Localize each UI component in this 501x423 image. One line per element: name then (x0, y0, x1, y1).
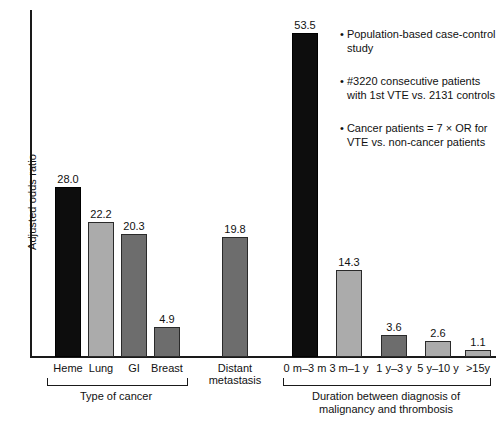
x-tick-label-line: 0 m–3 m (284, 362, 327, 374)
group-label-line: malignancy and thrombosis (312, 403, 460, 416)
bar: 4.9 (154, 327, 180, 357)
group-label: Duration between diagnosis ofmalignancy … (312, 390, 460, 416)
bar-value-label: 14.3 (338, 256, 359, 268)
y-axis-title: Adjusted odds ratio (26, 122, 38, 282)
annotation-item: • Cancer patients = 7 × OR for VTE vs. n… (340, 122, 500, 149)
x-tick-label: GI (128, 362, 140, 374)
group-label: Type of cancer (80, 390, 152, 403)
bar-value-label: 53.5 (294, 19, 315, 31)
x-tick-label: Heme (53, 362, 82, 374)
group-label-line: Type of cancer (80, 390, 152, 403)
x-tick-label: 1 y–3 y (376, 362, 411, 374)
x-tick-label-line: 3 m–1 y (329, 362, 368, 374)
x-tick-label: 3 m–1 y (329, 362, 368, 374)
x-tick-label-line: GI (128, 362, 140, 374)
x-tick-label-line: Heme (53, 362, 82, 374)
x-tick-label: Distantmetastasis (209, 362, 262, 386)
bar: 28.0 (55, 187, 81, 357)
x-tick-label-line: 5 y–10 y (417, 362, 459, 374)
bar-value-label: 22.2 (90, 208, 111, 220)
annotation-list: • Population-based case-control study• #… (340, 28, 500, 169)
bar-value-label: 20.3 (123, 220, 144, 232)
bar-value-label: 1.1 (470, 336, 485, 348)
bar: 53.5 (292, 33, 318, 357)
bar-value-label: 2.6 (430, 327, 445, 339)
x-tick-label-line: Lung (89, 362, 113, 374)
x-tick-label-line: Breast (151, 362, 183, 374)
x-tick-label-line: >15y (466, 362, 490, 374)
annotation-item: • Population-based case-control study (340, 28, 500, 55)
bar-value-label: 4.9 (159, 313, 174, 325)
bar: 1.1 (465, 350, 491, 357)
x-tick-label: Breast (151, 362, 183, 374)
x-tick-label: 0 m–3 m (284, 362, 327, 374)
bar: 19.8 (222, 237, 248, 357)
bar-value-label: 19.8 (224, 223, 245, 235)
x-tick-label-line: Distant (209, 362, 262, 374)
x-tick-label: 5 y–10 y (417, 362, 459, 374)
bar: 22.2 (88, 222, 114, 357)
bar: 14.3 (336, 270, 362, 357)
bar: 20.3 (121, 234, 147, 357)
group-bracket (47, 378, 188, 386)
x-tick-label-line: 1 y–3 y (376, 362, 411, 374)
group-bracket (283, 378, 491, 386)
x-tick-label: Lung (89, 362, 113, 374)
bar: 2.6 (425, 341, 451, 357)
x-tick-label: >15y (466, 362, 490, 374)
group-label-line: Duration between diagnosis of (312, 390, 460, 403)
bar-value-label: 3.6 (386, 321, 401, 333)
bar: 3.6 (381, 335, 407, 357)
bar-value-label: 28.0 (57, 173, 78, 185)
x-tick-label-line: metastasis (209, 374, 262, 386)
annotation-item: • #3220 consecutive patients with 1st VT… (340, 75, 500, 102)
chart-canvas: Adjusted odds ratio 28.022.220.34.919.85… (0, 0, 501, 423)
